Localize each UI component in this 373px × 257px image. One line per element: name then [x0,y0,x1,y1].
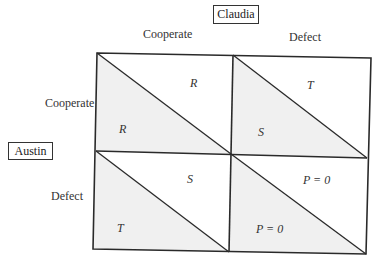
payoff-matrix: R R T S S T P = 0 P = 0 [0,0,373,257]
cell-dd-col-payoff: P = 0 [302,173,330,187]
cell-cc-col-payoff: R [189,76,198,90]
cell-cd-col-payoff: T [307,78,315,92]
cell-dc-col-payoff: S [187,172,193,186]
cell-cc-row-payoff: R [118,122,127,136]
cell-dd-row-payoff: P = 0 [255,222,283,236]
cell-cd-row-payoff: S [258,125,264,139]
